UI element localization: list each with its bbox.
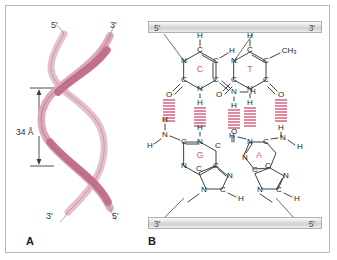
cytosine-n4-h2-label: H [231,101,237,110]
thymine-n3-label: N [247,84,253,93]
guanine-n2-h-top-label: H [162,115,168,124]
thymine-base-letter: T [247,64,253,74]
thymine-n3-h-label: H [247,98,253,107]
thymine-c2-label: C [231,75,237,84]
thymine-structure: N C C C N C T H CH3 O O [216,31,296,107]
guanine-n3-label: N [181,161,187,170]
guanine-c2-label: C [181,137,187,146]
cytosine-c4-label: C [213,75,219,84]
cytosine-n1-label: N [181,56,187,65]
backbone-top-left-prime: 5' [154,23,160,33]
adenine-n6-h2-label: H [297,142,303,151]
panel-b-letter: B [148,235,156,247]
panel-b-base-pairs: 5' 3' 3' 5' N C C C [142,6,329,252]
helix-pitch-dimension-label: 34 Å [16,127,34,137]
adenine-n6-h-label: H [278,123,284,132]
helix-bottom-right-prime-label: 5' [112,211,119,221]
cytosine-structure: N C C C N C C H H O N [166,31,256,110]
cytosine-n4-label: N [231,87,237,96]
guanine-c8-label: C [220,185,226,194]
adenine-base-letter: A [256,150,262,160]
thymine-c6-label: C [247,45,253,54]
backbone-bottom-left-prime: 3' [154,219,160,229]
helix-top-left-prime-label: 5' [51,20,58,30]
thymine-o2-label: O [216,90,222,99]
helix-bottom-left-prime-label: 3' [46,211,53,221]
panel-a-letter: A [26,235,34,247]
guanine-n2-label: N [162,130,168,139]
panel-a-double-helix: 5' 3' 3' 5' 34 Å [6,6,142,252]
guanine-n9-label: N [201,185,207,194]
adenine-structure: H N C N C C A H N H [229,123,303,203]
cytosine-c-top-label: C [197,45,203,54]
guanine-c8-h-label: H [238,194,244,203]
adenine-c8-h-label: H [294,194,300,203]
backbone-bottom-right-prime: 5' [309,219,315,229]
adenine-n9-label: N [257,185,263,194]
thymine-o4-label: O [278,90,284,99]
cytosine-n3-h-label: H [197,98,203,107]
adenine-c6-top-label: N [247,137,253,146]
helix-top-right-prime-label: 3' [110,20,117,30]
guanine-n1-h-label: H [197,123,203,132]
adenine-n7-label: N [283,171,289,180]
adenine-n3-label: N [242,153,248,162]
top-backbone-bar: 5' 3' [148,21,322,33]
adenine-n6-label: N [280,133,286,142]
cytosine-h-c5-label: H [229,46,235,55]
adenine-c8-label: C [276,185,282,194]
bottom-backbone-bar: 3' 5' [148,217,322,229]
thymine-methyl-label: CH3 [282,46,297,55]
adenine-c6-label: C [263,137,269,146]
cytosine-base-letter: C [197,64,204,74]
backbone-top-right-prime: 3' [309,23,315,33]
thymine-c5-label: C [263,56,269,65]
cytosine-n3-label: N [197,84,203,93]
adenine-c2-h-label: H [229,131,235,140]
guanine-base-letter: G [196,150,203,160]
cytosine-c2-label: C [181,75,187,84]
guanine-n1-label: N [197,137,203,146]
thymine-c4-label: C [263,75,269,84]
cytosine-c-right-label: C [213,56,219,65]
figure-frame: 5' 3' 3' 5' 34 Å [5,5,330,253]
guanine-n7-label: N [227,171,233,180]
cytosine-o2-label: O [166,90,172,99]
guanine-n2-h-label: H [147,141,153,150]
thymine-n1-label: N [231,56,237,65]
guanine-c6-label: C [215,141,221,150]
